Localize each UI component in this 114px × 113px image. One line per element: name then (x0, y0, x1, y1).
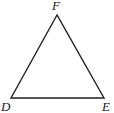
vertex-label-f: F (51, 0, 61, 13)
vertex-label-e: E (101, 99, 110, 113)
triangle-diagram: F D E (0, 0, 114, 113)
triangle-def (11, 15, 104, 98)
vertex-label-d: D (0, 99, 11, 113)
triangle-figure: F D E (0, 0, 114, 113)
